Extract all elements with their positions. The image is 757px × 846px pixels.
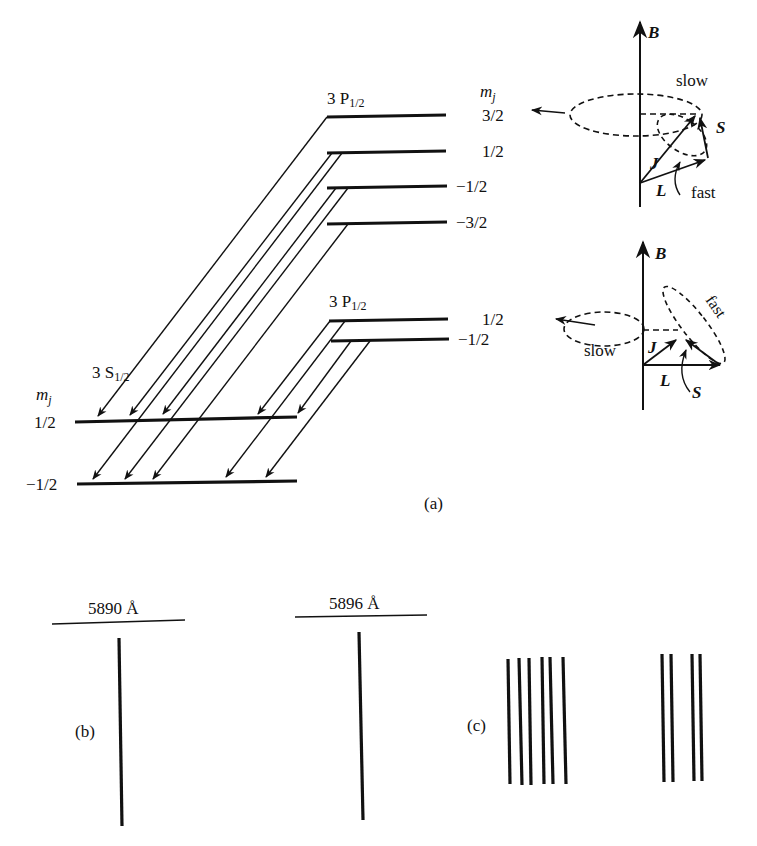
slow-label: slow bbox=[676, 71, 709, 90]
level-p-lower-neg1-2 bbox=[331, 339, 449, 341]
mj-header-ground: mj bbox=[36, 385, 52, 407]
level-p-upper-3-2 bbox=[327, 115, 446, 117]
panel-label-b: (b) bbox=[75, 722, 95, 741]
panel-b: 5890 Å 5896 Å (b) bbox=[52, 594, 427, 826]
mj-value: −1/2 bbox=[456, 177, 487, 196]
l-label: L bbox=[659, 371, 670, 390]
vector-model-top bbox=[532, 22, 714, 207]
mj-value: −1/2 bbox=[458, 330, 489, 349]
b-field-label: B bbox=[654, 244, 666, 263]
wavelength-bar bbox=[295, 615, 427, 617]
zeeman-component bbox=[563, 657, 566, 784]
s-label: S bbox=[692, 383, 701, 402]
upper-p-levels bbox=[327, 115, 447, 224]
wavelength-label-5890: 5890 Å bbox=[88, 599, 139, 618]
term-label-ground-s: 3 S1/2 bbox=[92, 363, 130, 384]
term-label-lower-p: 3 P1/2 bbox=[329, 292, 367, 313]
mj-value: 1/2 bbox=[34, 413, 56, 432]
fast-label: fast bbox=[703, 292, 730, 321]
slow-precession-ellipse bbox=[570, 94, 702, 136]
fast-label: fast bbox=[691, 183, 716, 202]
zeeman-component bbox=[550, 657, 553, 784]
zeeman-component bbox=[662, 654, 664, 782]
level-p-upper-neg3-2 bbox=[327, 222, 447, 224]
lower-p-levels bbox=[329, 319, 449, 341]
zeeman-diagram: 3 P1/2 3 P1/2 3 S1/2 mj mj 3/2 1/2 −1/2 … bbox=[0, 0, 757, 846]
slow-direction-arrow bbox=[532, 110, 565, 113]
level-p-lower-1-2 bbox=[329, 319, 448, 321]
transition-arrow bbox=[93, 153, 342, 479]
term-label-upper-p: 3 P1/2 bbox=[327, 89, 365, 110]
zeeman-component bbox=[700, 654, 702, 781]
transitions-lower bbox=[226, 321, 370, 477]
level-s-1-2 bbox=[75, 417, 297, 422]
zeeman-component bbox=[519, 658, 522, 785]
fast-curved-arrow bbox=[682, 350, 690, 392]
level-p-upper-neg1-2 bbox=[327, 186, 447, 188]
fast-curved-arrow bbox=[675, 162, 680, 195]
transitions-upper bbox=[93, 117, 348, 479]
mj-value: −3/2 bbox=[456, 213, 487, 232]
j-label: J bbox=[649, 154, 659, 173]
mj-value: −1/2 bbox=[26, 475, 57, 494]
transition-arrow bbox=[258, 321, 330, 414]
zeeman-component bbox=[508, 659, 510, 784]
fast-precession-ellipse bbox=[655, 280, 733, 370]
vector-model-bottom-labels: B slow fast J L S bbox=[584, 244, 730, 402]
mj-value: 3/2 bbox=[482, 106, 504, 125]
slow-direction-arrow bbox=[556, 319, 595, 325]
level-s-neg1-2 bbox=[77, 481, 297, 484]
transition-arrow bbox=[266, 341, 370, 477]
zeeman-component bbox=[542, 657, 544, 784]
zeeman-component bbox=[671, 654, 673, 782]
panel-label-a: (a) bbox=[424, 494, 443, 513]
vector-model-top-labels: B slow fast J L S bbox=[647, 23, 725, 202]
level-p-upper-1-2 bbox=[327, 151, 446, 153]
mj-value: 1/2 bbox=[482, 142, 504, 161]
s-vector bbox=[686, 340, 720, 365]
transition-arrow bbox=[153, 224, 348, 479]
spectral-line-5896 bbox=[359, 632, 363, 820]
slow-label: slow bbox=[584, 341, 617, 360]
vector-model-bottom bbox=[556, 242, 733, 410]
spectral-line-5890 bbox=[119, 638, 122, 826]
zeeman-component bbox=[692, 654, 694, 781]
wavelength-bar bbox=[52, 620, 185, 624]
mj-values-lower-p: 1/2 −1/2 bbox=[458, 310, 504, 349]
transition-arrow bbox=[163, 188, 336, 414]
panel-c bbox=[508, 654, 702, 785]
l-label: L bbox=[655, 181, 666, 200]
transition-arrow bbox=[226, 321, 345, 477]
mj-values-upper: 3/2 1/2 −1/2 −3/2 bbox=[456, 106, 504, 232]
mj-values-ground: 1/2 −1/2 bbox=[26, 413, 57, 494]
transition-arrow bbox=[98, 117, 327, 416]
j-label: J bbox=[647, 338, 657, 357]
wavelength-label-5896: 5896 Å bbox=[329, 594, 380, 613]
zeeman-component bbox=[529, 658, 531, 785]
transition-arrow bbox=[125, 188, 348, 479]
mj-header-upper: mj bbox=[480, 82, 496, 104]
s-label: S bbox=[716, 118, 725, 137]
mj-value: 1/2 bbox=[482, 310, 504, 329]
b-field-label: B bbox=[647, 23, 659, 42]
panel-label-c: (c) bbox=[467, 716, 486, 735]
